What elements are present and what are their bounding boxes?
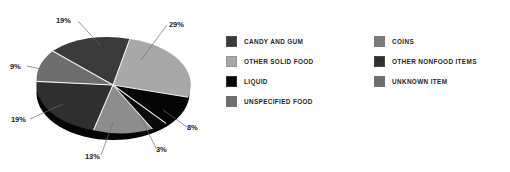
pie-label-liquid: 8% <box>187 123 198 132</box>
pie-label-unspecified-food-small: 3% <box>156 145 167 154</box>
pie-chart-figure: 19% 29% 9% 19% 13% 3% 8% Candy and Gum O… <box>0 0 510 172</box>
legend-swatch-coins <box>374 36 385 47</box>
legend-item-other-solid-food: Other Solid Food <box>226 53 374 70</box>
legend-swatch-unknown-item <box>374 76 385 87</box>
legend-item-candy-and-gum: Candy and Gum <box>226 33 374 50</box>
pie-label-unspecified-food: 13% <box>85 152 100 161</box>
legend-item-unspecified-food: Unspecified Food <box>226 93 374 110</box>
legend-swatch-liquid <box>226 76 237 87</box>
legend-swatch-other-nonfood-items <box>374 56 385 67</box>
legend-column-2: Coins Other Nonfood Items Unknown Item <box>374 33 510 93</box>
legend-label-liquid: Liquid <box>244 76 268 87</box>
legend-label-unknown-item: Unknown Item <box>392 76 447 87</box>
pie-label-other-nonfood-items: 19% <box>11 115 26 124</box>
legend-item-other-nonfood-items: Other Nonfood Items <box>374 53 510 70</box>
legend-swatch-candy-and-gum <box>226 36 237 47</box>
pie-chart-graphic: 19% 29% 9% 19% 13% 3% 8% <box>0 0 230 172</box>
pie-label-candy-and-gum: 19% <box>56 16 71 25</box>
legend-item-unknown-item: Unknown Item <box>374 73 510 90</box>
legend-item-liquid: Liquid <box>226 73 374 90</box>
legend-swatch-other-solid-food <box>226 56 237 67</box>
legend-label-unspecified-food: Unspecified Food <box>244 96 313 107</box>
pie-label-other-solid-food: 29% <box>169 20 184 29</box>
pie-label-coins: 9% <box>10 62 21 71</box>
legend-label-other-solid-food: Other Solid Food <box>244 56 314 67</box>
legend-column-1: Candy and Gum Other Solid Food Liquid Un… <box>226 33 374 113</box>
legend-label-coins: Coins <box>392 36 414 47</box>
legend-swatch-unspecified-food <box>226 96 237 107</box>
legend-label-candy-and-gum: Candy and Gum <box>244 36 303 47</box>
chart-legend: Candy and Gum Other Solid Food Liquid Un… <box>226 33 510 113</box>
legend-label-other-nonfood-items: Other Nonfood Items <box>392 56 477 67</box>
legend-item-coins: Coins <box>374 33 510 50</box>
